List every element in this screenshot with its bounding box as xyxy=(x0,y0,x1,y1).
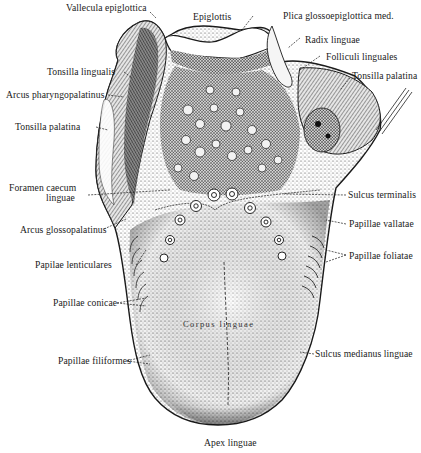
label-tonsilla-palatina-left: Tonsilla palatina xyxy=(15,121,80,132)
label-sulcus-terminalis: Sulcus terminalis xyxy=(348,189,416,200)
tongue-anatomy-figure: Vallecula epiglottica Epiglottis Plica g… xyxy=(0,0,421,453)
label-papillae-vallatae: Papillae vallatae xyxy=(349,218,414,229)
label-papillae-foliatae: Papillae foliatae xyxy=(349,250,413,261)
label-apex-linguae: Apex linguae xyxy=(204,437,257,448)
label-corpus-linguae: Corpus linguae xyxy=(183,319,254,329)
label-folliculi-linguales: Folliculi linguales xyxy=(326,51,397,62)
label-arcus-pharyngopalatinus: Arcus pharyngopalatinus xyxy=(6,89,104,100)
label-foramen-caecum-line2: linguae xyxy=(46,192,75,203)
label-vallecula-epiglottica: Vallecula epiglottica xyxy=(66,2,147,13)
label-papillae-conicae: Papillae conicae xyxy=(53,297,117,308)
label-epiglottis: Epiglottis xyxy=(193,11,231,22)
label-plica-glossoepiglottica: Plica glossoepiglottica med. xyxy=(283,10,394,21)
probe-instruments xyxy=(376,88,412,134)
label-papillae-filiformes: Papillae filiformes xyxy=(58,355,131,366)
label-arcus-glossopalatinus: Arcus glossopalatinus xyxy=(20,224,107,235)
radix-linguae-region xyxy=(160,66,300,195)
label-tonsilla-palatina-right: Tonsilla palatina xyxy=(352,70,417,81)
label-papilae-lenticulares: Papilae lenticulares xyxy=(35,259,112,270)
corpus-shading xyxy=(130,200,330,425)
label-radix-linguae: Radix linguae xyxy=(305,34,360,45)
label-tonsilla-lingualis: Tonsilla lingualis xyxy=(47,66,115,77)
label-sulcus-medianus-linguae: Sulcus medianus linguae xyxy=(315,348,413,359)
right-palatine-tonsil xyxy=(304,108,340,152)
